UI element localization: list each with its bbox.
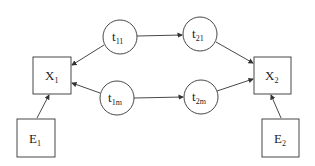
edge-e2-x2 (271, 95, 281, 118)
edge-t21-x2 (216, 42, 253, 63)
edge-t1m-t2m (134, 97, 183, 98)
edge-t11-t21 (137, 35, 182, 36)
edge-e1-x1 (37, 95, 49, 118)
path-diagram: X1 X2 E1 E2 t11 t21 t1m t2m (0, 0, 315, 166)
edge-t1m-x1 (72, 83, 100, 93)
edge-t11-x1 (72, 45, 104, 65)
edge-t2m-x2 (217, 79, 253, 91)
